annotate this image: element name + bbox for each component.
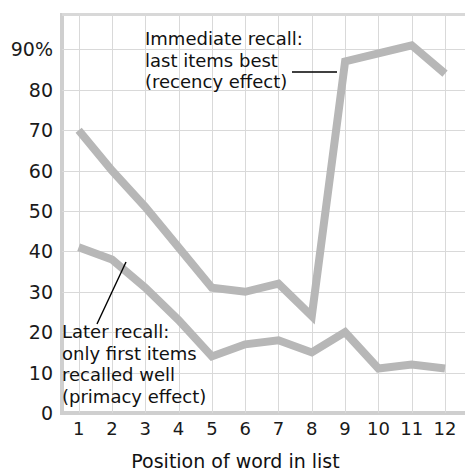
gridline-horizontal (62, 171, 465, 172)
gridline-vertical (378, 13, 379, 413)
y-axis-tick-label: 70 (0, 121, 53, 140)
x-axis-tick-label: 8 (297, 420, 327, 438)
y-axis-tick-label: 10 (0, 364, 53, 383)
gridline-horizontal (62, 130, 465, 131)
y-axis-tick-label: 40 (0, 242, 53, 261)
x-axis-tick-label: 7 (263, 420, 293, 438)
annotation-recency-effect: Immediate recall: last items best (recen… (145, 28, 303, 93)
x-axis-tick-label: 4 (164, 420, 194, 438)
y-axis-tick-label: 80 (0, 81, 53, 100)
x-axis-tick-label: 9 (330, 420, 360, 438)
x-axis-tick-label: 1 (64, 420, 94, 438)
y-axis-tick-label: 50 (0, 202, 53, 221)
x-axis-tick-label: 6 (230, 420, 260, 438)
x-axis-title: Position of word in list (0, 450, 471, 472)
x-axis-tick-label: 3 (130, 420, 160, 438)
y-axis-tick-label: 30 (0, 283, 53, 302)
gridline-vertical (312, 13, 313, 413)
x-axis-tick-label: 2 (97, 420, 127, 438)
x-axis-tick-label: 12 (430, 420, 460, 438)
y-axis-tick-label: 60 (0, 162, 53, 181)
annotation-primacy-effect: Later recall: only first items recalled … (62, 321, 206, 407)
x-axis-tick-label: 11 (397, 420, 427, 438)
gridline-vertical (345, 13, 346, 413)
x-axis-tick-label: 5 (197, 420, 227, 438)
y-axis-tick-label: 0 (0, 404, 53, 423)
gridline-horizontal (62, 211, 465, 212)
gridline-horizontal (62, 292, 465, 293)
y-axis-tick-label: 90% (0, 40, 53, 59)
x-axis-tick-label: 10 (363, 420, 393, 438)
y-axis-tick-label: 20 (0, 323, 53, 342)
serial-position-curve-chart: 0102030405060708090% 123456789101112 Imm… (0, 0, 471, 476)
gridline-vertical (445, 13, 446, 413)
gridline-horizontal (62, 251, 465, 252)
gridline-vertical (412, 13, 413, 413)
